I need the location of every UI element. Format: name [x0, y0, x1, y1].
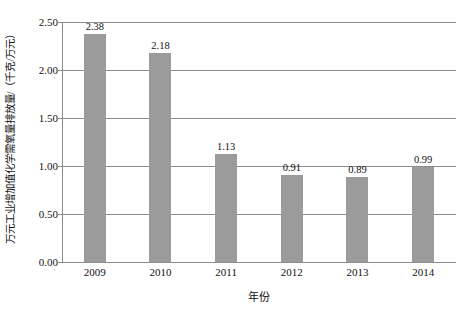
y-tick-label: 2.00 [39, 64, 58, 76]
y-tick-label: 2.50 [39, 16, 58, 28]
gridline [62, 262, 456, 263]
bar-value-label: 2.18 [151, 40, 169, 51]
bar-group[interactable]: 0.99 [390, 22, 456, 262]
bar-group[interactable]: 2.38 [62, 22, 128, 262]
y-axis-tick-labels: 0.000.501.001.502.002.50 [22, 0, 58, 272]
bar[interactable] [412, 167, 434, 262]
bar-value-label: 1.13 [217, 141, 235, 152]
x-tick-label: 2014 [412, 266, 434, 278]
x-tick-label: 2009 [84, 266, 106, 278]
y-tick-label: 1.00 [39, 160, 58, 172]
bar[interactable] [346, 177, 368, 262]
y-tick-mark [57, 262, 62, 263]
y-tick-label: 0.50 [39, 208, 58, 220]
bar[interactable] [281, 175, 303, 262]
bar-value-label: 2.38 [86, 21, 104, 32]
x-tick-label: 2010 [150, 266, 172, 278]
y-tick-label: 1.50 [39, 112, 58, 124]
bar[interactable] [149, 53, 171, 262]
bar-group[interactable]: 0.89 [325, 22, 391, 262]
x-axis-tick-labels: 200920102011201220132014 [62, 266, 456, 282]
y-tick-label: 0.00 [39, 256, 58, 268]
y-axis-title-text: 万元工业增加值化学需氧量排放量/（千克/万元） [3, 28, 18, 244]
bar-series: 2.382.181.130.910.890.99 [62, 22, 456, 262]
bar-group[interactable]: 1.13 [193, 22, 259, 262]
x-tick-label: 2013 [347, 266, 369, 278]
bar-value-label: 0.99 [414, 154, 432, 165]
plot-area: 2.382.181.130.910.890.99 [62, 22, 456, 262]
chart-figure: 万元工业增加值化学需氧量排放量/（千克/万元） 0.000.501.001.50… [0, 0, 467, 309]
x-axis-title: 年份 [62, 288, 456, 304]
bar[interactable] [215, 154, 237, 262]
bar[interactable] [84, 34, 106, 262]
y-axis-title: 万元工业增加值化学需氧量排放量/（千克/万元） [0, 0, 20, 272]
bar-value-label: 0.91 [283, 162, 301, 173]
bar-group[interactable]: 2.18 [128, 22, 194, 262]
bar-group[interactable]: 0.91 [259, 22, 325, 262]
x-tick-label: 2012 [281, 266, 303, 278]
x-tick-label: 2011 [215, 266, 237, 278]
bar-value-label: 0.89 [348, 164, 366, 175]
